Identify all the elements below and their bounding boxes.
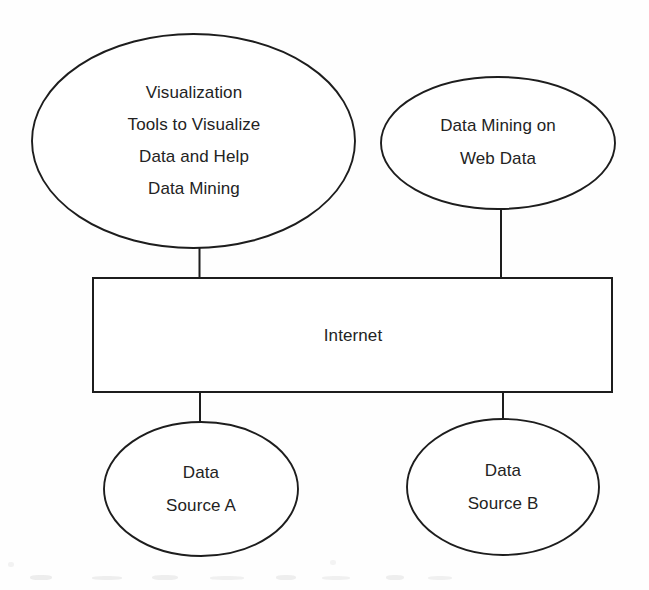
node-data-source-a[interactable] [104,422,298,556]
node-internet[interactable] [93,278,612,392]
node-visualization-tools[interactable] [32,34,355,248]
node-data-mining-web[interactable] [381,77,615,209]
node-data-source-b[interactable] [407,419,599,555]
diagram-canvas: Visualization Tools to Visualize Data an… [0,0,649,590]
diagram-vector-layer [0,0,649,590]
